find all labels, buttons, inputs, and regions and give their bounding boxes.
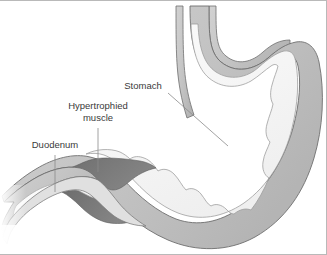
bottom-left-fade — [0, 225, 60, 255]
label-duodenum: Duodenum — [32, 139, 79, 150]
anatomical-figure: Stomach Hypertrophied muscle Duodenum — [0, 0, 327, 255]
anatomy-diagram-svg: Stomach Hypertrophied muscle Duodenum — [0, 0, 327, 255]
label-hypertrophied-muscle-line2: muscle — [83, 112, 113, 123]
label-stomach: Stomach — [124, 80, 162, 91]
label-hypertrophied-muscle-line1: Hypertrophied — [68, 100, 128, 111]
